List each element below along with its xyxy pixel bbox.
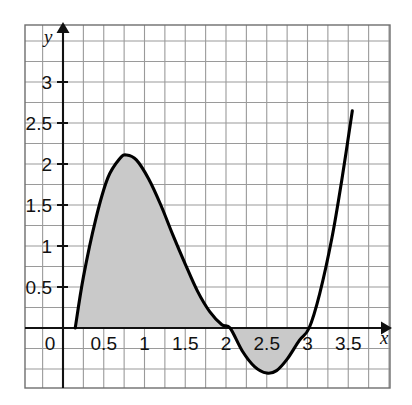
x-tick-label: 0.5	[91, 333, 117, 354]
x-tick-label: 0	[45, 333, 56, 354]
y-tick-label: 3	[41, 72, 52, 93]
y-tick-label: 2	[41, 154, 52, 175]
x-tick-label: 1.5	[172, 333, 198, 354]
x-tick-label: 3	[302, 333, 313, 354]
y-tick-label: 1.5	[26, 195, 52, 216]
x-axis-label: x	[379, 327, 389, 348]
x-tick-label: 2.5	[254, 333, 280, 354]
y-axis-label: y	[42, 26, 53, 47]
y-tick-label: 1	[41, 236, 52, 257]
x-tick-label: 3.5	[335, 333, 361, 354]
y-tick-label: 2.5	[26, 113, 52, 134]
x-tick-label: 2	[221, 333, 232, 354]
x-tick-label: 1	[139, 333, 150, 354]
cubic-function-plot: 00.511.522.533.50.511.522.53 x y	[0, 0, 412, 405]
y-tick-label: 0.5	[26, 277, 52, 298]
chart-figure: 00.511.522.533.50.511.522.53 x y	[0, 0, 412, 405]
